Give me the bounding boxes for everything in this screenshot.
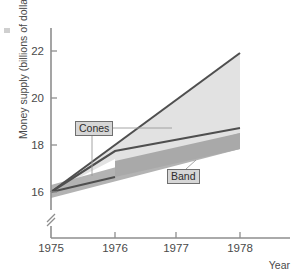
x-axis-ticks — [115, 232, 240, 238]
x-tick-label: 1976 — [102, 242, 128, 254]
chart-figure: 22 20 18 16 1975 1976 1977 1978 Year Mon… — [0, 0, 297, 275]
y-tick-label: 16 — [31, 186, 44, 198]
y-tick-label: 18 — [31, 139, 44, 151]
y-tick-label: 22 — [31, 45, 44, 57]
y-tick-labels: 22 20 18 16 — [31, 45, 44, 198]
y-axis-ticks — [51, 51, 57, 192]
y-axis-title: Money supply (billions of dollars) — [17, 0, 31, 139]
callout-cones: Cones — [75, 121, 113, 136]
callout-band: Band — [167, 169, 200, 184]
y-axis — [47, 28, 55, 238]
x-axis-title: Year — [269, 259, 291, 271]
x-tick-labels: 1975 1976 1977 1978 — [38, 242, 253, 254]
chart-canvas: 22 20 18 16 1975 1976 1977 1978 Year — [0, 0, 297, 275]
x-tick-label: 1977 — [163, 242, 189, 254]
x-tick-label: 1978 — [227, 242, 253, 254]
x-tick-label: 1975 — [38, 242, 64, 254]
y-tick-label: 20 — [31, 92, 44, 104]
